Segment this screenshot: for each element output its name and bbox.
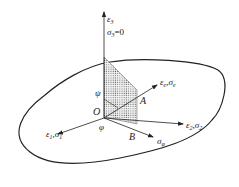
label-point-b: B [129,131,135,142]
label-axis-phi: σφ [157,136,165,147]
axis-1-line [58,118,104,134]
label-sigma3: σ3=0 [107,27,125,38]
label-angle-psi: ψ [95,88,101,98]
label-axis2: ε2,σ2 [186,120,202,131]
label-origin: O [93,106,100,117]
label-point-a: A [139,95,147,106]
diagram-canvas: ε3 σ3=0 ε1,σ1 ε2,σ2 εe,σe σφ O A B ψ φ [0,0,239,187]
shaded-plane [104,57,137,124]
label-axis1: ε1,σ1 [46,129,62,140]
label-eps3: ε3 [107,14,114,25]
label-angle-phi: φ [99,122,104,132]
label-axis-e: εe,σe [160,77,176,88]
axis-2-line [104,118,183,124]
